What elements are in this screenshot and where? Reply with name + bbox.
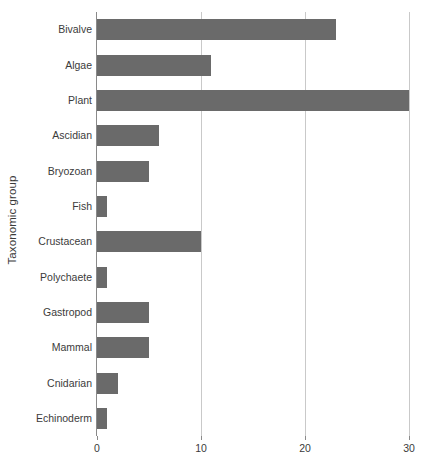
- bar-row[interactable]: [97, 373, 409, 394]
- bar-row[interactable]: [97, 19, 409, 40]
- bar[interactable]: [97, 55, 211, 76]
- y-axis-tick-label: Fish: [2, 200, 92, 212]
- bar[interactable]: [97, 196, 107, 217]
- gridline: [409, 12, 410, 436]
- y-axis-tick-label: Algae: [2, 59, 92, 71]
- y-axis-tick-label: Bivalve: [2, 23, 92, 35]
- y-axis-tick-label: Polychaete: [2, 271, 92, 283]
- x-axis-tick-label: 20: [299, 442, 311, 454]
- x-axis-tick-mark: [201, 436, 202, 440]
- y-axis-tick-label: Ascidian: [2, 129, 92, 141]
- y-axis-tick-label: Bryozoan: [2, 165, 92, 177]
- bar-row[interactable]: [97, 337, 409, 358]
- x-axis-tick-mark: [409, 436, 410, 440]
- bar[interactable]: [97, 302, 149, 323]
- x-axis-tick-mark: [97, 436, 98, 440]
- x-axis-tick-label: 0: [94, 442, 100, 454]
- y-axis-tick-label: Crustacean: [2, 235, 92, 247]
- bar[interactable]: [97, 337, 149, 358]
- y-axis-tick-label: Echinoderm: [2, 412, 92, 424]
- bar-row[interactable]: [97, 161, 409, 182]
- bar-row[interactable]: [97, 302, 409, 323]
- x-axis-tick-label: 10: [195, 442, 207, 454]
- bar[interactable]: [97, 408, 107, 429]
- bar[interactable]: [97, 373, 118, 394]
- bar[interactable]: [97, 231, 201, 252]
- bar-row[interactable]: [97, 267, 409, 288]
- y-axis-tick-label: Mammal: [2, 341, 92, 353]
- bar-row[interactable]: [97, 125, 409, 146]
- bar[interactable]: [97, 267, 107, 288]
- y-axis-tick-label: Plant: [2, 94, 92, 106]
- x-axis-tick-label: 30: [403, 442, 415, 454]
- bar-row[interactable]: [97, 55, 409, 76]
- y-axis-tick-labels: BivalveAlgaePlantAscidianBryozoanFishCru…: [0, 12, 92, 436]
- y-axis-tick-label: Cnidarian: [2, 377, 92, 389]
- bar[interactable]: [97, 125, 159, 146]
- bar-row[interactable]: [97, 196, 409, 217]
- bar[interactable]: [97, 19, 336, 40]
- bar-row[interactable]: [97, 408, 409, 429]
- bar-row[interactable]: [97, 90, 409, 111]
- y-axis-tick-label: Gastropod: [2, 306, 92, 318]
- bar[interactable]: [97, 90, 409, 111]
- plot-area: [97, 12, 409, 436]
- bar-row[interactable]: [97, 231, 409, 252]
- bar-chart: Taxonomic group BivalveAlgaePlantAscidia…: [0, 0, 427, 473]
- x-axis-tick-mark: [305, 436, 306, 440]
- bar[interactable]: [97, 161, 149, 182]
